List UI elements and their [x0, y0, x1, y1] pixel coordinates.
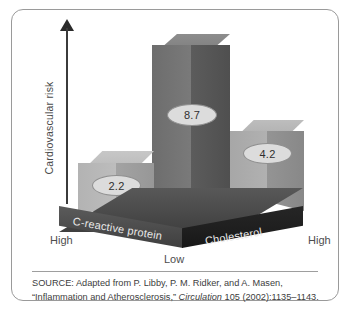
source-journal-name: Circulation — [179, 292, 222, 302]
source-line-2: “Inflammation and Atherosclerosis,” Circ… — [32, 291, 322, 305]
source-line-1: SOURCE: Adapted from P. Libby, P. M. Rid… — [32, 277, 322, 291]
source-divider — [32, 271, 318, 272]
chart-plot-area: Cardiovascular risk 1.0 8.7 — [12, 10, 338, 260]
y-axis-line — [66, 28, 68, 204]
source-volume-pages: 105 (2002):1135–1143. — [222, 292, 319, 302]
axis-corner-label-left: High — [50, 234, 73, 246]
axis-corner-label-center: Low — [164, 253, 184, 265]
bar-4-2-value-badge: 4.2 — [243, 143, 292, 164]
bar-8-7-value-badge: 8.7 — [167, 104, 217, 126]
axis-corner-label-right: High — [308, 234, 331, 246]
source-article-title: “Inflammation and Atherosclerosis,” — [32, 292, 179, 302]
figure-frame: Cardiovascular risk 1.0 8.7 — [11, 9, 339, 301]
source-citation: SOURCE: Adapted from P. Libby, P. M. Rid… — [32, 277, 322, 304]
y-axis-label: Cardiovascular risk — [43, 58, 55, 198]
